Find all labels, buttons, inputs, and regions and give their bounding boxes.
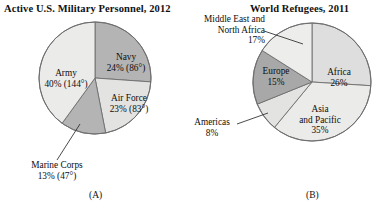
pie-label-asia-value: 35% xyxy=(289,125,351,136)
pie-label-asia-and-pacific: Asia and Pacific 35% xyxy=(289,104,351,136)
pie-label-asia-line1: Asia xyxy=(311,104,328,114)
pie-label-middle-east-north-africa: Middle East and North Africa 17% xyxy=(193,14,265,46)
pie-label-americas: Americas 8% xyxy=(187,117,237,138)
pie-label-africa-value: 26% xyxy=(316,78,362,89)
pie-label-europe: Europe 15% xyxy=(252,66,300,87)
pie-label-europe-value: 15% xyxy=(252,77,300,88)
pie-label-europe-name: Europe xyxy=(263,66,290,76)
leader-line-americas xyxy=(237,113,268,124)
pie-label-americas-name: Americas xyxy=(194,117,230,127)
pie-label-africa: Africa 26% xyxy=(316,67,362,88)
panel-caption-b: (B) xyxy=(306,190,319,200)
pie-label-africa-name: Africa xyxy=(327,67,351,77)
pie-label-mena-line2: North Africa xyxy=(193,25,265,36)
pie-chart-figure: Active U.S. Military Personnel, 2012 Arm… xyxy=(0,0,389,224)
pie-label-mena-line1: Middle East and xyxy=(204,14,265,24)
pie-label-mena-value: 17% xyxy=(193,35,265,46)
pie-label-americas-value: 8% xyxy=(187,128,237,139)
pie-label-asia-line2: and Pacific xyxy=(289,115,351,126)
